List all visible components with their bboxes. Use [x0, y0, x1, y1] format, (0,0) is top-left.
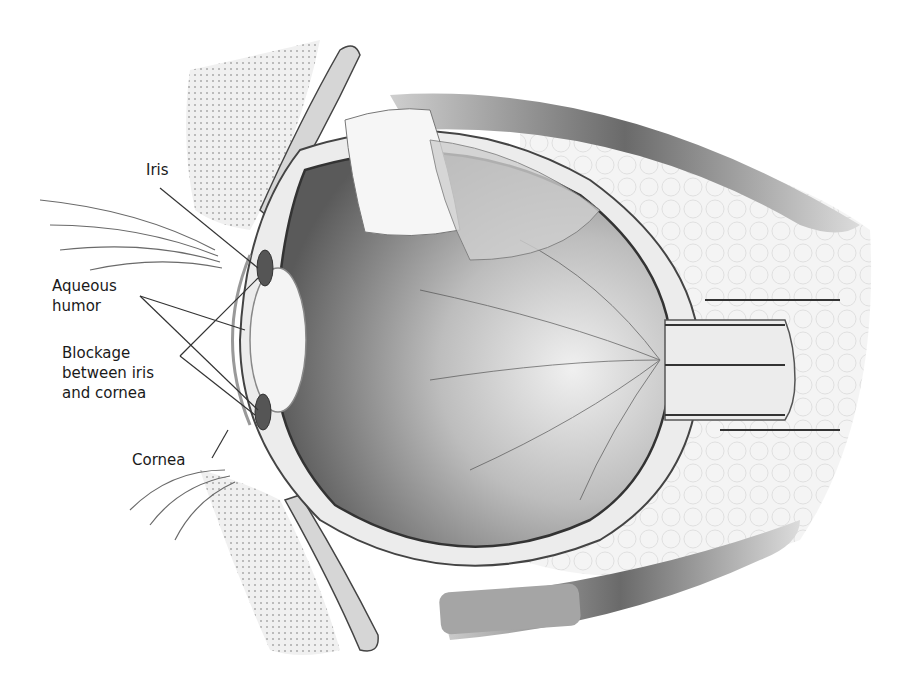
- iris-upper: [257, 250, 273, 286]
- inferior-muscle-tendon: [439, 583, 582, 635]
- leader-aqueous-upper: [140, 296, 245, 330]
- optic-nerve: [665, 320, 795, 420]
- iris-lower: [255, 394, 271, 430]
- leader-cornea: [212, 430, 228, 458]
- label-blockage: Blockage between iris and cornea: [62, 343, 154, 403]
- upper-eyelashes: [40, 200, 222, 270]
- label-cornea: Cornea: [132, 450, 185, 470]
- lens: [250, 268, 306, 412]
- label-iris: Iris: [146, 160, 169, 180]
- eye-cross-section-illustration: [0, 0, 920, 680]
- label-aqueous-humor: Aqueous humor: [52, 276, 117, 316]
